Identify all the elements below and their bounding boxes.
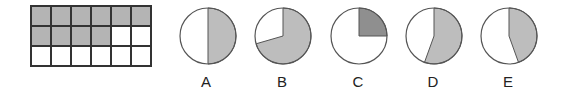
grid-cell-empty [31,46,51,66]
grid-cell-empty [71,46,91,66]
pie-slice-shaded [208,8,236,64]
grid-cell-shaded [71,6,91,26]
grid-cell-empty [111,46,131,66]
grid-cell-shaded [51,6,71,26]
fraction-grid [30,5,152,67]
label-a: A [191,73,221,90]
grid-cell-empty [131,46,151,66]
label-e: E [493,73,523,90]
grid-cell-shaded [91,6,111,26]
grid-cell-shaded [31,26,51,46]
pie-a [178,6,238,66]
grid-cell-empty [111,26,131,46]
pie-c [329,6,389,66]
label-d: D [418,73,448,90]
pie-d [404,6,464,66]
grid-cell-empty [131,26,151,46]
pie-e [479,6,539,66]
grid-cell-shaded [31,6,51,26]
grid-cell-shaded [111,6,131,26]
grid-cell-empty [51,46,71,66]
grid-cell-shaded [131,6,151,26]
label-b: B [267,73,297,90]
pie-b [253,6,313,66]
grid-cell-shaded [91,26,111,46]
grid-cell-shaded [71,26,91,46]
grid-cell-empty [91,46,111,66]
grid-cell-shaded [51,26,71,46]
label-c: C [343,73,373,90]
